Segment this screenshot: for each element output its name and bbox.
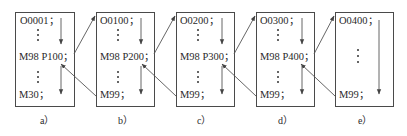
call-arrow-d-to-e-icon <box>314 16 334 54</box>
program-header-c: O0200； <box>180 15 219 26</box>
program-end-e: M99； <box>339 89 369 100</box>
call-arrow-b-to-c-icon <box>154 16 175 54</box>
caption-e: e） <box>358 115 372 126</box>
program-header-d: O0300； <box>260 15 299 26</box>
call-arrow-c-to-d-icon <box>234 16 255 54</box>
program-end-a: M30； <box>19 89 49 100</box>
subprogram-call-b: M98 P200； <box>100 51 154 62</box>
program-header-b: O0100； <box>100 15 139 26</box>
subprogram-call-c: M98 P300； <box>180 51 234 62</box>
program-header-e: O0400； <box>339 15 378 26</box>
panel-d: O0300； M98 P400； M99； d） <box>257 13 315 127</box>
panel-b: O0100； M98 P200； M99； b） <box>97 13 155 127</box>
panel-e: O0400； M99； e） <box>336 13 394 127</box>
panel-c: O0200； M98 P300； M99； c） <box>177 13 235 127</box>
program-header-a: O0001； <box>20 15 59 26</box>
subprogram-call-d: M98 P400； <box>260 51 314 62</box>
subprogram-nesting-diagram: O0001； M98 P100； M30； a） O0100； M98 P200… <box>0 0 407 136</box>
panel-a: O0001； M98 P100； M30； a） <box>16 13 75 127</box>
caption-b: b） <box>118 115 133 126</box>
caption-c: c） <box>197 115 211 126</box>
program-end-b: M99； <box>100 89 130 100</box>
call-arrow-a-to-b-icon <box>74 16 95 54</box>
program-end-d: M99； <box>260 89 290 100</box>
caption-a: a） <box>40 115 54 126</box>
subprogram-call-a: M98 P100； <box>19 51 73 62</box>
program-end-c: M99； <box>180 89 210 100</box>
caption-d: d） <box>278 115 293 126</box>
